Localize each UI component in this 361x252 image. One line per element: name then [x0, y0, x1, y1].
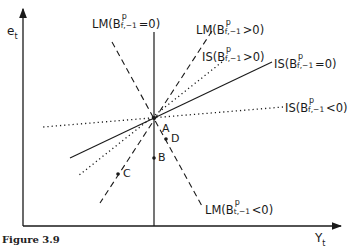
label-is-neg: IS(Bpf,−1<0) [285, 101, 348, 115]
label-is-zero: IS(Bpf,−1=0) [274, 57, 337, 71]
islm-diagram [0, 0, 361, 252]
point-d-label: D [171, 133, 179, 144]
y-axis-label: et [7, 24, 18, 38]
label-is-pos: IS(Bpf,−1>0) [202, 50, 265, 64]
label-lm-neg: LM(Bpt,−1<0) [205, 203, 273, 217]
is-pos-curve [78, 62, 222, 176]
lm-neg-curve [112, 42, 203, 208]
point-a-label: A [162, 123, 170, 134]
point-b-label: B [158, 152, 166, 163]
x-axis-label: Yt [315, 231, 325, 245]
label-lm-pos: LM(Bpf,−1>0) [196, 23, 264, 37]
figure-caption: Figure 3.9 [2, 234, 60, 245]
point-a-dot [152, 116, 156, 120]
point-b-dot [152, 156, 156, 160]
label-lm-zero: LM(Bpf,−1=0) [92, 17, 160, 31]
point-c-dot [116, 172, 120, 176]
point-c-label: C [123, 168, 131, 179]
point-d-dot [164, 137, 168, 141]
